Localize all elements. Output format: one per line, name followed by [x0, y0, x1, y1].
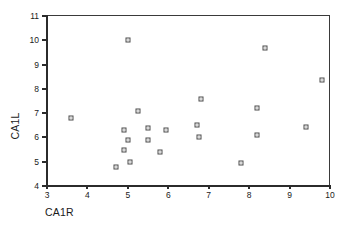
y-tick-label: 8: [25, 85, 39, 93]
y-tick-10: 10: [42, 39, 46, 41]
y-tick-11: 11: [42, 15, 46, 17]
y-tick-6: 6: [42, 136, 46, 138]
y-tick-label: 10: [25, 36, 39, 44]
y-tick-label: 7: [25, 109, 39, 117]
data-point: [125, 137, 130, 142]
x-tick-label: 8: [247, 191, 252, 200]
y-tick-label: 4: [25, 182, 39, 190]
y-tick-7: 7: [42, 112, 46, 114]
y-tick-label: 9: [25, 61, 39, 69]
data-point-core: [200, 98, 201, 99]
data-point: [69, 116, 74, 121]
data-point-core: [166, 130, 167, 131]
data-point-core: [305, 126, 306, 127]
data-point: [127, 159, 132, 164]
data-point-core: [123, 130, 124, 131]
data-point-core: [257, 108, 258, 109]
x-tick-10: [329, 185, 331, 189]
data-point: [255, 133, 260, 138]
x-tick-6: [167, 185, 169, 189]
data-point: [319, 78, 324, 83]
x-tick-4: [86, 185, 88, 189]
data-point: [198, 96, 203, 101]
y-axis-title: CA1L: [9, 104, 21, 148]
x-tick-label: 7: [206, 191, 211, 200]
x-tick-label: 10: [325, 191, 334, 200]
data-point: [255, 106, 260, 111]
y-tick-8: 8: [42, 88, 46, 90]
data-point-core: [137, 110, 138, 111]
data-point: [125, 38, 130, 43]
y-tick-label: 6: [25, 133, 39, 141]
y-tick-label: 11: [25, 12, 39, 20]
data-point: [121, 147, 126, 152]
y-tick-9: 9: [42, 64, 46, 66]
x-tick-label: 3: [45, 191, 50, 200]
x-tick-label: 6: [166, 191, 171, 200]
data-point: [196, 135, 201, 140]
data-point-core: [265, 47, 266, 48]
x-axis-title: CA1R: [45, 206, 74, 218]
x-tick-5: [127, 185, 129, 189]
data-point: [303, 124, 308, 129]
data-point: [263, 45, 268, 50]
data-point: [121, 128, 126, 133]
data-point-core: [127, 40, 128, 41]
data-point-core: [71, 118, 72, 119]
scatter-plot-figure: 4567891011 345678910 CA1L CA1R: [0, 0, 347, 233]
data-point-core: [123, 149, 124, 150]
data-point-core: [321, 80, 322, 81]
data-point-core: [148, 127, 149, 128]
data-point: [164, 128, 169, 133]
data-point-core: [196, 125, 197, 126]
x-tick-3: [46, 185, 48, 189]
x-tick-label: 5: [125, 191, 130, 200]
data-point-core: [257, 135, 258, 136]
data-point-core: [241, 162, 242, 163]
data-point: [194, 123, 199, 128]
y-tick-5: 5: [42, 161, 46, 163]
data-point-core: [115, 166, 116, 167]
y-tick-label: 5: [25, 158, 39, 166]
data-point: [239, 160, 244, 165]
data-point: [146, 125, 151, 130]
y-axis-line: [46, 15, 48, 187]
data-point-core: [148, 139, 149, 140]
data-point: [146, 137, 151, 142]
data-point: [113, 164, 118, 169]
plot-area-frame: [46, 15, 330, 186]
data-point-core: [160, 152, 161, 153]
data-point: [135, 108, 140, 113]
data-point: [158, 150, 163, 155]
x-tick-8: [248, 185, 250, 189]
data-point-core: [129, 161, 130, 162]
data-point-core: [198, 137, 199, 138]
data-point-core: [127, 139, 128, 140]
x-tick-label: 9: [287, 191, 292, 200]
x-tick-label: 4: [85, 191, 90, 200]
x-tick-7: [208, 185, 210, 189]
x-tick-9: [289, 185, 291, 189]
